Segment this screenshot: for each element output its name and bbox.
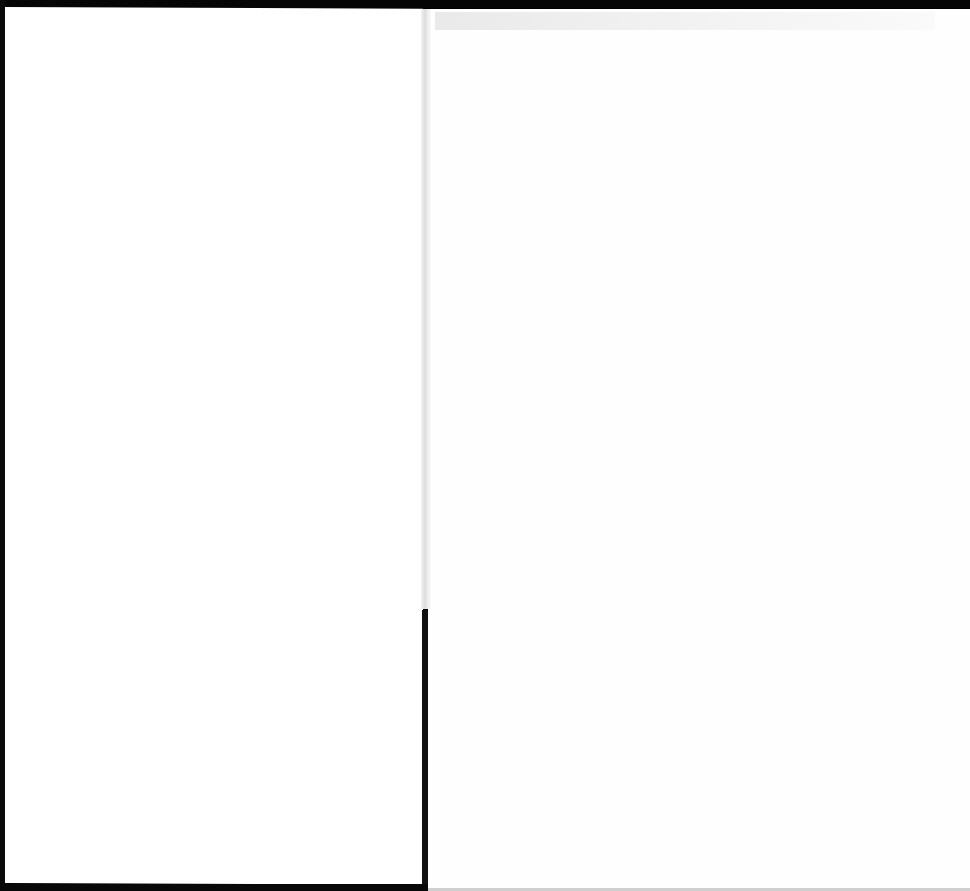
left-page <box>5 7 423 885</box>
book-gutter-shadow <box>421 9 431 609</box>
book-gutter-dark <box>422 610 428 891</box>
scan-bottom-border <box>0 884 428 891</box>
right-page <box>428 9 970 891</box>
scan-smudge <box>435 12 935 30</box>
